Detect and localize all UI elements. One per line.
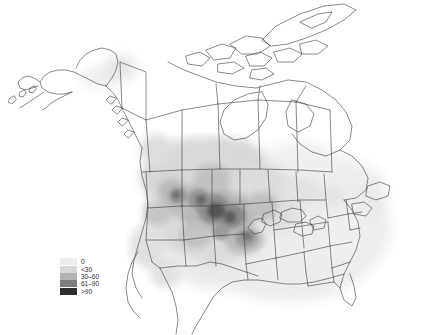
legend-item-3: 61–90	[60, 280, 130, 287]
legend-swatch-2	[60, 273, 77, 280]
legend-item-4: >90	[60, 288, 130, 295]
legend-label-0: 0	[81, 258, 85, 265]
legend-swatch-1	[60, 266, 77, 273]
legend-swatch-3	[60, 280, 77, 287]
legend-label-3: 61–90	[81, 280, 99, 287]
legend-item-1: <30	[60, 265, 130, 272]
legend-swatch-4	[60, 288, 77, 295]
legend-item-0: 0	[60, 258, 130, 265]
legend-label-4: >90	[81, 288, 92, 295]
legend-item-2: 30–60	[60, 273, 130, 280]
legend-label-1: <30	[81, 266, 92, 273]
map-legend: 0 <30 30–60 61–90 >90	[60, 258, 130, 295]
legend-label-2: 30–60	[81, 273, 99, 280]
map-figure: 0 <30 30–60 61–90 >90	[0, 0, 428, 335]
legend-swatch-0	[60, 258, 77, 265]
